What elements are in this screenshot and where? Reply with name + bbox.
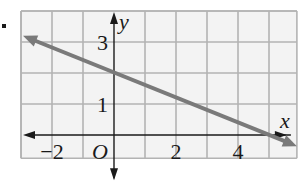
origin-label: O bbox=[92, 139, 108, 164]
x-tick-label: 2 bbox=[171, 139, 182, 164]
y-tick-label: 3 bbox=[97, 30, 108, 55]
problem-bullet bbox=[2, 24, 6, 28]
x-axis-label: x bbox=[279, 108, 290, 133]
coordinate-plane: −22413Oxy bbox=[0, 0, 298, 185]
y-axis-arrow-down-icon bbox=[110, 168, 118, 180]
y-axis-label: y bbox=[117, 9, 129, 34]
y-tick-label: 1 bbox=[97, 92, 108, 117]
grid-background bbox=[21, 11, 297, 158]
x-tick-label: 4 bbox=[233, 139, 244, 164]
x-tick-label: −2 bbox=[40, 139, 63, 164]
